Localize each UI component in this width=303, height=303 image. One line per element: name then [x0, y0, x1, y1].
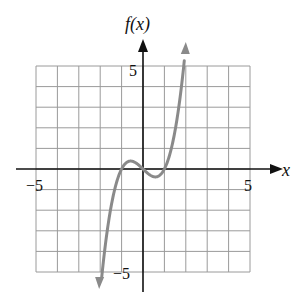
axes	[16, 39, 283, 292]
curve-arrow-up-icon	[181, 42, 190, 54]
x-axis-label: x	[281, 160, 290, 180]
x-max-tick-label: 5	[244, 177, 252, 194]
y-axis-label: f(x)	[125, 14, 150, 35]
function-graph: f(x) x −5 5 5 −5	[0, 0, 303, 303]
y-max-tick-label: 5	[129, 62, 137, 79]
y-min-tick-label: −5	[113, 265, 130, 282]
x-min-tick-label: −5	[26, 177, 43, 194]
curve-arrow-down-icon	[95, 277, 104, 289]
